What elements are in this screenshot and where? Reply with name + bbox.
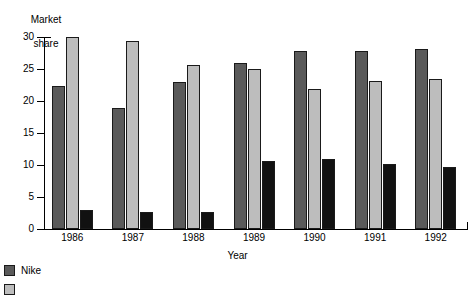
bar: [294, 51, 307, 229]
bar: [355, 51, 368, 229]
bar: [383, 164, 396, 229]
x-axis-tick-label: 1988: [161, 233, 226, 243]
legend-item-label: Nike: [21, 265, 41, 276]
y-axis-tick-label: 20: [2, 96, 34, 106]
x-axis-tick-label: 1989: [222, 233, 287, 243]
bar: [187, 65, 200, 229]
y-axis-tick-label: 0: [2, 224, 34, 234]
y-axis-tick: [37, 37, 44, 38]
bar-group: [112, 37, 153, 229]
chart-legend: Nike: [4, 263, 204, 299]
bar-group: [173, 37, 214, 229]
y-axis-tick: [37, 229, 44, 230]
bar: [322, 159, 335, 229]
y-axis-tick: [37, 197, 44, 198]
bar: [140, 212, 153, 229]
bar: [248, 69, 261, 229]
bar: [80, 210, 93, 229]
y-axis-line: [44, 37, 45, 229]
x-axis-tick-label: 1990: [282, 233, 347, 243]
legend-item: Nike: [4, 263, 204, 278]
bar: [443, 167, 456, 229]
bar-group: [234, 37, 275, 229]
y-axis-tick-label: 15: [2, 128, 34, 138]
bar: [308, 89, 321, 229]
x-axis-tick-label: 1992: [403, 233, 468, 243]
bar: [429, 79, 442, 229]
plot-area: 0510152025301986198719881989199019911992: [44, 37, 468, 229]
bar: [112, 108, 125, 229]
x-axis-right-cap: [467, 222, 468, 229]
y-axis-tick: [37, 133, 44, 134]
y-axis-tick: [37, 165, 44, 166]
bar-group: [294, 37, 335, 229]
bar: [201, 212, 214, 229]
bar: [52, 86, 65, 229]
y-axis-tick-label: 30: [2, 32, 34, 42]
y-axis-tick-label: 10: [2, 160, 34, 170]
y-axis-title-line-1: Market: [18, 14, 74, 26]
bar-group: [415, 37, 456, 229]
bar: [262, 161, 275, 229]
y-axis-tick-label: 5: [2, 192, 34, 202]
bar-group: [52, 37, 93, 229]
bar: [126, 41, 139, 229]
bar-group: [355, 37, 396, 229]
y-axis-tick: [37, 101, 44, 102]
bar: [415, 49, 428, 229]
x-axis-line: [44, 229, 468, 230]
y-axis-tick: [37, 69, 44, 70]
x-axis-tick-label: 1986: [40, 233, 105, 243]
y-axis-top-cap: [44, 37, 51, 38]
y-axis-tick-label: 25: [2, 64, 34, 74]
x-axis-tick-label: 1987: [100, 233, 165, 243]
x-axis-tick-label: 1991: [343, 233, 408, 243]
bar: [66, 37, 79, 229]
bar: [234, 63, 247, 229]
x-axis-title: Year: [0, 250, 475, 261]
bar: [369, 81, 382, 229]
legend-item: [4, 282, 204, 297]
bar: [173, 82, 186, 229]
legend-color-swatch: [4, 265, 15, 276]
legend-color-swatch: [4, 284, 15, 295]
